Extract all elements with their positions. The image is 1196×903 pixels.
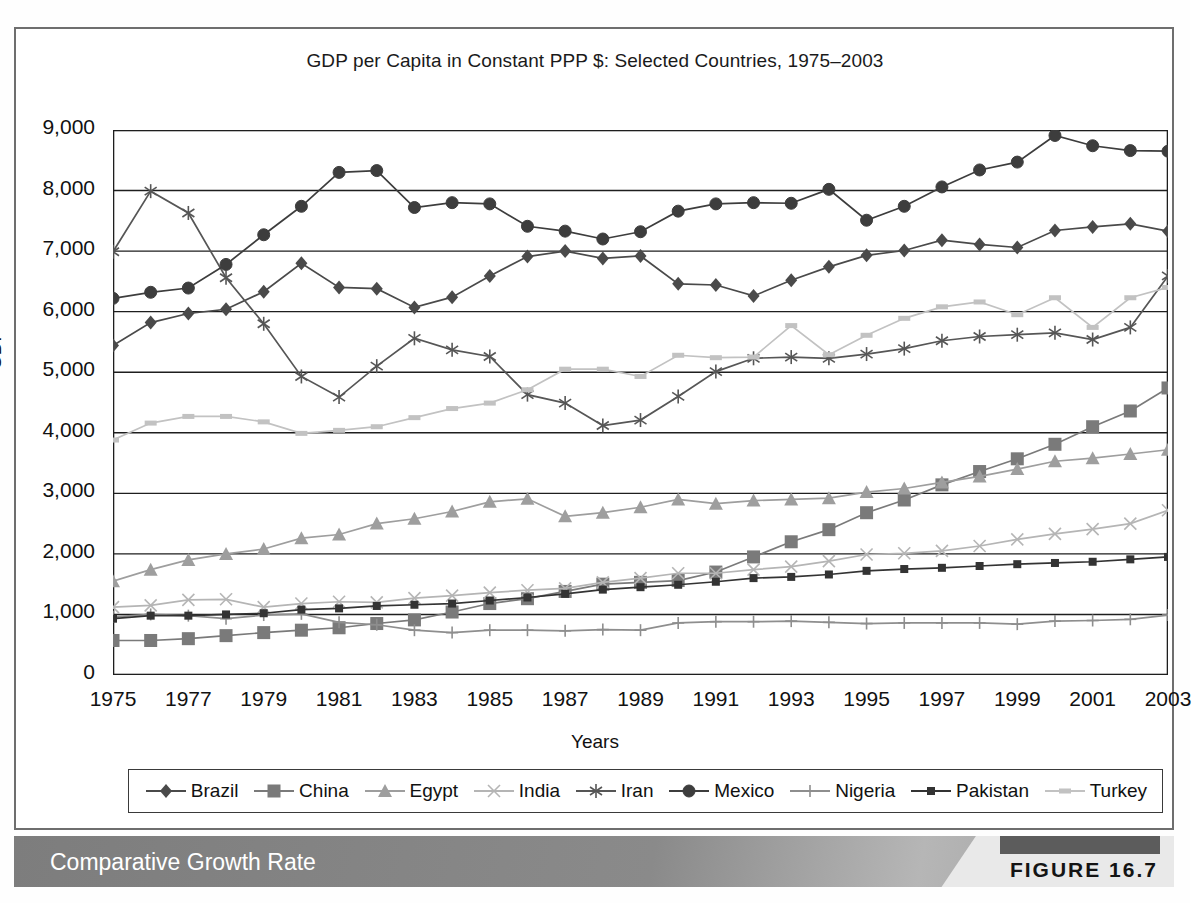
y-tick-label: 5,000 bbox=[0, 357, 95, 381]
data-point-plus bbox=[748, 616, 760, 628]
data-point-small-square bbox=[1013, 560, 1021, 568]
x-tick-label: 1983 bbox=[374, 687, 454, 711]
data-point-diamond bbox=[559, 244, 571, 258]
data-point-dash bbox=[1087, 325, 1099, 330]
y-tick-label: 8,000 bbox=[0, 176, 95, 200]
data-point-small-square bbox=[712, 578, 720, 586]
data-point-plus bbox=[559, 625, 571, 637]
legend-label: Brazil bbox=[191, 780, 239, 802]
y-tick-label: 6,000 bbox=[0, 297, 95, 321]
data-point-square bbox=[268, 785, 281, 798]
data-point-circle bbox=[785, 197, 797, 209]
data-point-diamond bbox=[1087, 220, 1099, 234]
y-tick-label: 1,000 bbox=[0, 599, 95, 623]
x-tick-label: 1991 bbox=[676, 687, 756, 711]
data-point-diamond bbox=[113, 339, 119, 353]
data-point-small-square bbox=[938, 564, 946, 572]
data-point-small-square bbox=[297, 606, 305, 614]
legend-marker-plus-icon bbox=[788, 781, 832, 801]
data-point-triangle bbox=[257, 542, 271, 555]
legend-item-egypt[interactable]: Egypt bbox=[363, 780, 459, 802]
data-point-triangle bbox=[113, 574, 120, 587]
data-point-plus bbox=[710, 616, 722, 628]
data-point-dash bbox=[1049, 295, 1061, 300]
data-point-dash bbox=[258, 419, 270, 424]
data-point-circle bbox=[936, 181, 948, 193]
data-point-small-square bbox=[184, 612, 192, 620]
data-point-square bbox=[182, 632, 195, 645]
data-point-circle bbox=[1124, 145, 1136, 157]
data-point-dash bbox=[295, 431, 307, 436]
series-line bbox=[113, 510, 1168, 607]
data-point-small-square bbox=[825, 570, 833, 578]
legend-item-china[interactable]: China bbox=[252, 780, 349, 802]
y-tick-label: 2,000 bbox=[0, 539, 95, 563]
data-point-plus bbox=[1049, 615, 1061, 627]
data-point-asterisk bbox=[371, 359, 383, 373]
legend-item-mexico[interactable]: Mexico bbox=[667, 780, 774, 802]
line-chart-svg bbox=[113, 130, 1168, 675]
series-line bbox=[113, 450, 1168, 581]
legend-marker-x-icon bbox=[472, 781, 516, 801]
x-tick-label: 1993 bbox=[751, 687, 831, 711]
y-tick-label: 9,000 bbox=[0, 115, 95, 139]
legend-item-iran[interactable]: Iran bbox=[574, 780, 654, 802]
data-point-small-square bbox=[448, 600, 456, 608]
data-point-dash bbox=[1162, 285, 1168, 290]
data-point-plus bbox=[521, 624, 533, 636]
data-point-diamond bbox=[333, 280, 345, 294]
data-point-small-square bbox=[561, 590, 569, 598]
data-point-diamond bbox=[160, 784, 172, 798]
data-point-square bbox=[144, 634, 157, 647]
y-tick-label: 7,000 bbox=[0, 236, 95, 260]
legend-marker-diamond-icon bbox=[144, 781, 188, 801]
data-point-small-square bbox=[674, 581, 682, 589]
legend-item-turkey[interactable]: Turkey bbox=[1043, 780, 1147, 802]
legend-label: India bbox=[519, 780, 560, 802]
data-point-plus bbox=[974, 617, 986, 629]
data-point-dash bbox=[710, 355, 722, 360]
legend-item-pakistan[interactable]: Pakistan bbox=[909, 780, 1029, 802]
data-point-square bbox=[220, 629, 233, 642]
data-point-dash bbox=[672, 353, 684, 358]
data-point-asterisk bbox=[672, 389, 684, 403]
data-point-small-square bbox=[1051, 559, 1059, 567]
data-point-square bbox=[822, 523, 835, 536]
plot-border bbox=[114, 131, 1168, 675]
legend-item-brazil[interactable]: Brazil bbox=[144, 780, 239, 802]
data-point-circle bbox=[182, 282, 194, 294]
data-point-circle bbox=[408, 202, 420, 214]
data-point-diamond bbox=[220, 302, 232, 316]
data-point-asterisk bbox=[559, 396, 571, 410]
data-point-dash bbox=[1124, 295, 1136, 300]
legend-item-india[interactable]: India bbox=[472, 780, 560, 802]
data-point-small-square bbox=[599, 586, 607, 594]
data-point-plus bbox=[672, 617, 684, 629]
x-tick-label: 1999 bbox=[977, 687, 1057, 711]
data-point-plus bbox=[597, 624, 609, 636]
data-point-diamond bbox=[258, 285, 270, 299]
figure-tab-accent bbox=[1000, 836, 1160, 854]
data-point-plus bbox=[446, 627, 458, 639]
data-point-circle bbox=[521, 220, 533, 232]
legend-marker-small-square-icon bbox=[909, 781, 953, 801]
x-tick-label: 1981 bbox=[299, 687, 379, 711]
chart-legend: BrazilChinaEgyptIndiaIranMexicoNigeriaPa… bbox=[128, 769, 1163, 813]
data-point-small-square bbox=[486, 597, 494, 605]
series-iran bbox=[113, 184, 1168, 432]
y-tick-label: 0 bbox=[0, 660, 95, 684]
data-point-circle bbox=[597, 233, 609, 245]
data-point-circle bbox=[371, 165, 383, 177]
legend-marker-square-icon bbox=[252, 781, 296, 801]
data-point-circle bbox=[220, 258, 232, 270]
plot-area bbox=[113, 130, 1168, 675]
data-point-dash bbox=[898, 316, 910, 321]
data-point-asterisk bbox=[333, 390, 345, 404]
data-point-dash bbox=[408, 415, 420, 420]
legend-item-nigeria[interactable]: Nigeria bbox=[788, 780, 895, 802]
legend-label: Mexico bbox=[714, 780, 774, 802]
data-point-square bbox=[785, 535, 798, 548]
data-point-small-square bbox=[787, 573, 795, 581]
data-point-diamond bbox=[1011, 240, 1023, 254]
data-point-circle bbox=[484, 198, 496, 210]
